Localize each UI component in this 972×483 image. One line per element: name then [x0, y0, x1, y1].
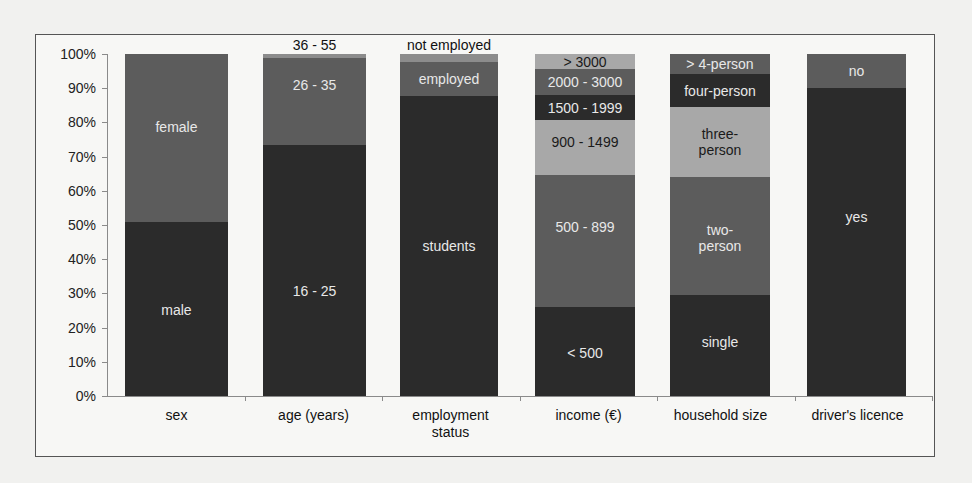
y-axis — [107, 54, 108, 396]
segment-single: single — [670, 295, 770, 396]
y-label: 70% — [40, 150, 96, 164]
stacked-bar-chart: 100% 90% 80% 70% 60% 50% 40% 30% 20% 10%… — [0, 0, 972, 483]
segment-two-person: two- person — [670, 177, 770, 295]
y-tick — [102, 396, 107, 397]
segment-label: yes — [846, 209, 868, 225]
segment-900-1499: 900 - 1499 — [535, 120, 635, 175]
y-label: 60% — [40, 184, 96, 198]
segment-1500-1999: 1500 - 1999 — [535, 95, 635, 120]
label-36-55: 36 - 55 — [263, 37, 366, 53]
bar-age: 26 - 35 16 - 25 — [263, 54, 366, 396]
y-label: 20% — [40, 321, 96, 335]
segment-label: single — [702, 334, 739, 350]
segment-label: 16 - 25 — [293, 283, 337, 299]
label-not-employed: not employed — [391, 37, 507, 53]
y-tick — [102, 54, 107, 55]
segment-label: 26 - 35 — [293, 77, 337, 93]
segment-label: four-person — [684, 83, 756, 99]
segment-label: 500 - 899 — [555, 219, 614, 235]
y-tick — [102, 88, 107, 89]
category-label-age: age (years) — [245, 407, 382, 424]
segment-label: female — [155, 119, 197, 135]
segment-500-899: 500 - 899 — [535, 175, 635, 307]
bar-drivers-licence: no yes — [807, 54, 906, 396]
category-label-income: income (€) — [520, 407, 657, 424]
bar-income: > 3000 2000 - 3000 1500 - 1999 900 - 149… — [535, 54, 635, 396]
segment-four-person: four-person — [670, 74, 770, 107]
segment-students: students — [400, 96, 498, 396]
y-label: 100% — [40, 47, 96, 61]
segment-lt500: < 500 — [535, 307, 635, 396]
y-tick — [102, 328, 107, 329]
category-label-sex: sex — [108, 407, 245, 424]
segment-male: male — [125, 222, 228, 396]
segment-label: 1500 - 1999 — [548, 100, 623, 116]
y-tick — [102, 157, 107, 158]
segment-16-25: 16 - 25 — [263, 145, 366, 396]
x-tick — [795, 396, 796, 401]
category-label-household: household size — [652, 407, 789, 424]
y-label: 0% — [40, 389, 96, 403]
y-tick — [102, 293, 107, 294]
segment-label: no — [849, 63, 865, 79]
category-label-licence: driver's licence — [789, 407, 926, 424]
segment-label: 900 - 1499 — [552, 134, 619, 150]
segment-female: female — [125, 54, 228, 222]
x-tick — [520, 396, 521, 401]
y-tick — [102, 259, 107, 260]
segment-employed: employed — [400, 62, 498, 96]
x-tick — [657, 396, 658, 401]
segment-yes: yes — [807, 88, 906, 396]
y-tick — [102, 191, 107, 192]
bar-household: > 4-person four-person three- person two… — [670, 54, 770, 396]
segment-2000-3000: 2000 - 3000 — [535, 69, 635, 95]
x-tick — [382, 396, 383, 401]
segment-label: 2000 - 3000 — [548, 74, 623, 90]
segment-gt3000: > 3000 — [535, 54, 635, 69]
bar-employment: employed students — [400, 54, 498, 396]
segment-26-35: 26 - 35 — [263, 58, 366, 145]
segment-label: > 4-person — [686, 56, 753, 72]
x-tick — [932, 396, 933, 401]
segment-label: male — [161, 302, 191, 318]
segment-three-person: three- person — [670, 107, 770, 177]
segment-label: < 500 — [567, 345, 602, 361]
bar-sex: female male — [125, 54, 228, 396]
y-tick — [102, 122, 107, 123]
segment-label: students — [423, 238, 476, 254]
y-tick — [102, 362, 107, 363]
y-label: 80% — [40, 115, 96, 129]
category-label-employment: employment status — [382, 407, 519, 441]
segment-no: no — [807, 54, 906, 88]
segment-label: > 3000 — [563, 54, 606, 70]
y-label: 30% — [40, 286, 96, 300]
y-label: 90% — [40, 81, 96, 95]
y-label: 10% — [40, 355, 96, 369]
segment-gt4-person: > 4-person — [670, 54, 770, 74]
segment-label: two- person — [699, 222, 742, 254]
y-label: 40% — [40, 252, 96, 266]
segment-label: three- person — [699, 126, 742, 158]
segment-label: employed — [419, 71, 480, 87]
y-label: 50% — [40, 218, 96, 232]
y-tick — [102, 225, 107, 226]
segment-not-employed — [400, 54, 498, 62]
x-tick — [245, 396, 246, 401]
